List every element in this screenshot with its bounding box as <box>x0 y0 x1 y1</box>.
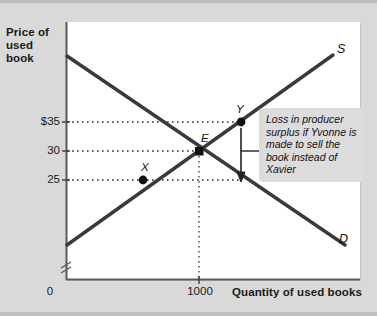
x-tick-label-1000: 1000 <box>177 285 223 297</box>
y-tick-label-25: 25 <box>20 173 60 185</box>
x-axis-title: Quantity of used books <box>232 286 362 299</box>
x-tick-label-origin: 0 <box>38 285 62 297</box>
marker-point-Y <box>237 118 246 127</box>
y-axis-title-line1: Price of <box>6 26 64 39</box>
producer-surplus-loss-callout: Loss in producer surplus if Yvonne is ma… <box>259 108 363 182</box>
point-label-e: E <box>201 132 209 144</box>
marker-point-X <box>139 176 148 185</box>
figure-container: Price of used book Quantity of used book… <box>0 0 377 316</box>
y-axis-title-line2: used book <box>6 39 64 65</box>
producer-surplus-loss-arrow <box>237 128 245 182</box>
supply-curve-label: S <box>337 42 345 56</box>
y-tick-label-30: 30 <box>20 144 60 156</box>
demand-curve-label: D <box>339 232 348 246</box>
point-label-y: Y <box>236 103 244 115</box>
point-label-x: X <box>141 161 149 173</box>
y-tick-label-35: $35 <box>20 115 60 127</box>
y-axis-title: Price of used book <box>6 26 64 65</box>
marker-point-E <box>195 147 204 156</box>
